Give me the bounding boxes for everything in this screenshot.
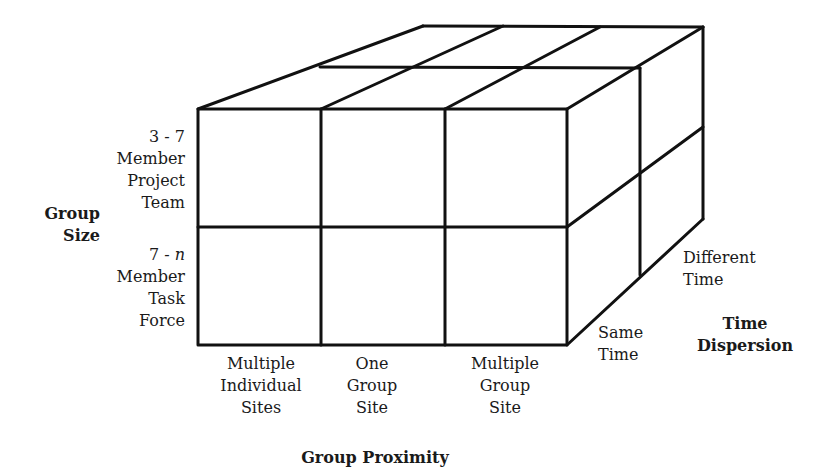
proximity-level-multiple-group: Multiple Group Site: [445, 353, 565, 419]
time-level-same: Same Time: [598, 322, 678, 366]
top-back-edge: [423, 26, 703, 27]
group-size-level-large: 7 - n Member Task Force: [100, 244, 185, 332]
proximity-level-one-group: One Group Site: [322, 353, 422, 419]
top-mid-edge: [320, 67, 640, 68]
right-row-divider: [567, 127, 703, 227]
group-proximity-title: Group Proximity: [280, 447, 470, 469]
group-size-title: Group Size: [20, 203, 100, 247]
group-size-range-label: 7 - n: [100, 244, 185, 266]
time-dispersion-title: Time Dispersion: [690, 313, 800, 357]
group-size-level-small: 3 - 7 Member Project Team: [100, 126, 185, 214]
time-level-different: Different Time: [683, 247, 773, 291]
proximity-level-multiple-individual: Multiple Individual Sites: [200, 353, 322, 419]
